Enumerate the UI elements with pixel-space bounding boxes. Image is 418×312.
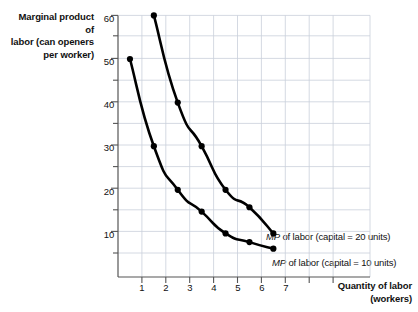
data-point: [151, 12, 157, 18]
chart-plot-svg: [0, 0, 418, 312]
y-axis-ticks: [111, 15, 118, 253]
series-capital-10: [127, 56, 277, 252]
data-point: [246, 204, 252, 210]
data-point: [151, 143, 157, 149]
data-point: [270, 230, 276, 236]
data-point: [270, 246, 276, 252]
data-point: [127, 56, 133, 62]
data-point: [175, 100, 181, 106]
data-point: [199, 209, 205, 215]
data-point: [199, 143, 205, 149]
data-point: [246, 239, 252, 245]
data-point: [175, 187, 181, 193]
data-point: [222, 230, 228, 236]
series-layer: [127, 12, 277, 251]
series-line: [130, 59, 273, 249]
data-point: [222, 187, 228, 193]
x-axis-ticks: [142, 277, 333, 283]
chart-figure: Marginal product of labor (can openers p…: [0, 0, 418, 312]
